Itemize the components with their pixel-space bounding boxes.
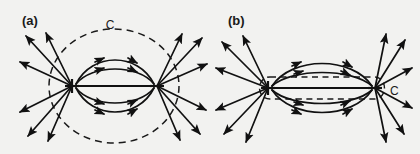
panel-b-label: (b)	[228, 13, 245, 28]
panel-a-contour-label: C	[106, 18, 115, 32]
dipole-field-figure: (a) C	[0, 0, 420, 154]
panel-a-label: (a)	[22, 13, 38, 28]
